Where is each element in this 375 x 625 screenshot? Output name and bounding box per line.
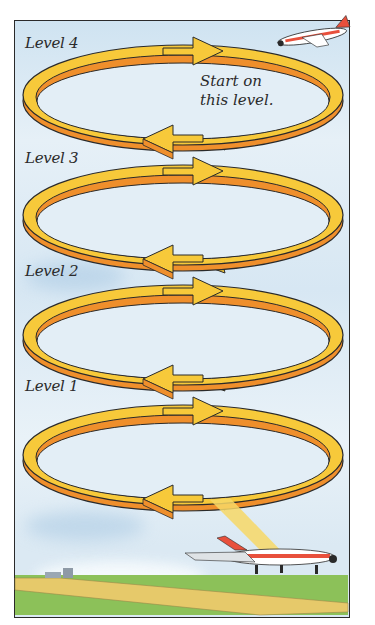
start-annotation-line-1: Start on: [200, 72, 274, 91]
level-3-label: Level 3: [25, 149, 78, 167]
start-annotation-line-2: this level.: [200, 91, 274, 110]
ring-level-1: [23, 397, 343, 519]
level-4-label: Level 4: [25, 34, 78, 52]
ring-level-3: [23, 157, 343, 279]
airplane-in-flight-icon: [275, 15, 352, 53]
start-annotation: Start on this level.: [200, 72, 274, 110]
level-2-label: Level 2: [25, 262, 78, 280]
level-1-label: Level 1: [25, 377, 78, 395]
ring-level-4: [23, 37, 343, 159]
airport-building: [63, 568, 73, 578]
airport-building: [45, 572, 61, 578]
holding-pattern-artwork: [0, 0, 375, 625]
